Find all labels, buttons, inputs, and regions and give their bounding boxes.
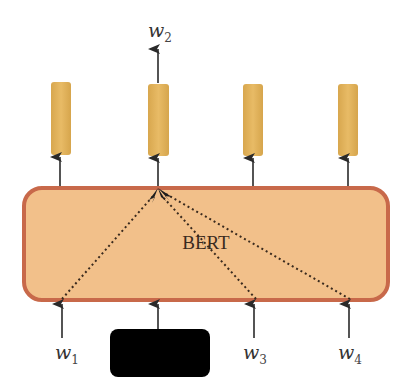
output-vector-2 bbox=[148, 84, 169, 186]
predicted-token-label: w2 bbox=[148, 19, 172, 45]
input-masked bbox=[110, 304, 210, 377]
output-vector-1 bbox=[51, 82, 71, 186]
input-w1: w1 bbox=[55, 304, 79, 367]
input-token-label: w1 bbox=[55, 341, 79, 367]
output-vectors bbox=[51, 82, 358, 186]
output-vector-4 bbox=[338, 84, 358, 186]
input-token-label: w3 bbox=[243, 341, 267, 367]
mask-token-box bbox=[110, 329, 210, 377]
input-w4: w4 bbox=[338, 304, 362, 367]
bert-mlm-diagram: BERT w2 bbox=[0, 0, 408, 390]
bert-encoder-block: BERT bbox=[24, 188, 388, 300]
inputs: w1 w3 w4 bbox=[55, 304, 362, 377]
predicted-output: w2 bbox=[148, 19, 172, 83]
output-vector-3 bbox=[243, 84, 263, 186]
input-w3: w3 bbox=[243, 304, 267, 367]
encoder-label: BERT bbox=[182, 232, 230, 253]
input-token-label: w4 bbox=[338, 341, 362, 367]
